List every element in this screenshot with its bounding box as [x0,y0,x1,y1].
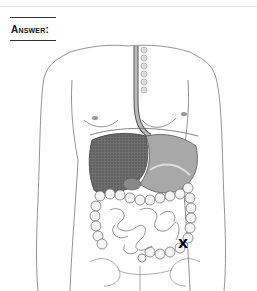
answer-label: Answer: [11,24,56,35]
x-marker: X [178,236,188,251]
digestive-system-figure: X [0,40,257,291]
anatomy-torso-illustration-icon [0,40,257,291]
top-divider [0,6,257,7]
answer-block: Answer: [10,17,56,41]
answer-rule-top [10,17,56,18]
